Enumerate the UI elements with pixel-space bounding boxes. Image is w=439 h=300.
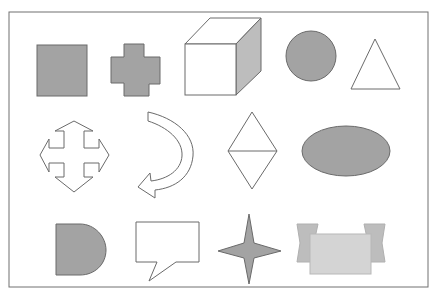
half-circle-d-shape [56, 224, 106, 275]
ellipse-shape [302, 126, 390, 176]
shapes-diagram [0, 0, 439, 300]
square-shape [37, 45, 87, 96]
circle-shape [286, 31, 336, 81]
